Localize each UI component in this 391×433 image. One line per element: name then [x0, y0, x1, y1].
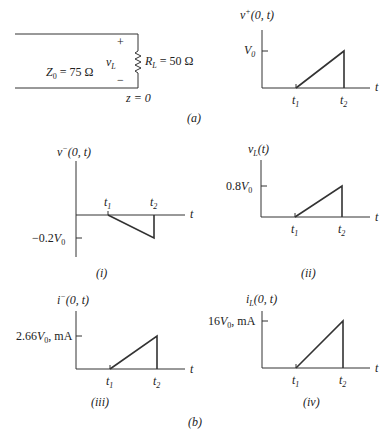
- caption-ii: (ii): [301, 267, 316, 279]
- load-current-title: iL(0, t): [246, 293, 277, 308]
- load-voltage-title: vL(t): [248, 143, 269, 158]
- plot-reflected-voltage-axes: [76, 161, 185, 257]
- plot-reflected-current-axes: [76, 311, 185, 369]
- load-resistor-icon: [135, 34, 141, 88]
- load-current-t1-label: t1: [292, 374, 299, 389]
- reflected-current-t2-label: t2: [153, 375, 160, 390]
- load-voltage-t1-label: t1: [291, 223, 298, 238]
- reflected-t1-label: t1: [104, 196, 111, 211]
- incident-axis-label: t: [375, 81, 378, 93]
- line-impedance-label: Z0 = 75 Ω: [46, 66, 93, 81]
- load-resistor-label: RL = 50 Ω: [145, 55, 193, 70]
- reflected-current-ytick: 2.66V0, mA: [16, 330, 72, 345]
- reflected-current-title: i−(0, t): [57, 293, 89, 306]
- load-voltage-ytick: 0.8V0: [226, 180, 252, 195]
- incident-voltage-ytick: V0: [244, 44, 255, 59]
- incident-t1-label: t1: [292, 94, 299, 109]
- load-voltage-t2-label: t2: [338, 223, 345, 238]
- load-voltage-label: vL: [106, 56, 116, 71]
- caption-iii: (iii): [91, 396, 109, 408]
- reflected-voltage-ytick: −0.2V0: [32, 232, 65, 247]
- reflected-axis-label: t: [190, 208, 193, 220]
- load-voltage-axis-label: t: [375, 211, 378, 223]
- plot-load-current-axes: [262, 311, 370, 368]
- reflected-current-axis-label: t: [190, 363, 193, 375]
- minus-sign: −: [117, 74, 124, 86]
- load-current-t2-label: t2: [339, 374, 346, 389]
- part-a-caption: (a): [187, 112, 201, 124]
- caption-i: (i): [96, 267, 107, 279]
- plot-incident-voltage-waveform: [296, 51, 344, 88]
- plot-reflected-current-waveform: [110, 336, 157, 369]
- reflected-current-t1-label: t1: [106, 375, 113, 390]
- plot-load-current-waveform: [296, 321, 343, 368]
- reflected-t2-label: t2: [150, 196, 157, 211]
- caption-iv: (iv): [303, 396, 320, 408]
- load-current-ytick: 16V0, mA: [208, 315, 255, 330]
- incident-t2-label: t2: [340, 94, 347, 109]
- plot-load-voltage-axes: [261, 160, 370, 217]
- plot-reflected-voltage-waveform: [108, 215, 154, 238]
- plot-incident-voltage-axes: [262, 30, 370, 88]
- load-position-label: z = 0: [126, 92, 151, 104]
- part-b-caption: (b): [188, 416, 202, 428]
- plus-sign: +: [117, 36, 124, 48]
- reflected-voltage-title: v−(0, t): [57, 145, 91, 158]
- plot-load-voltage-waveform: [295, 186, 342, 217]
- incident-voltage-title: v+(0, t): [240, 8, 274, 21]
- load-current-axis-label: t: [375, 362, 378, 374]
